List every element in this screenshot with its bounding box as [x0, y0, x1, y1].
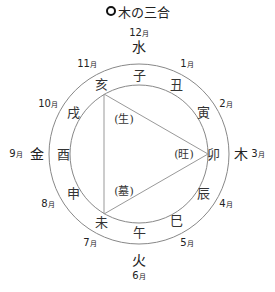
branch-label: 辰 [197, 187, 210, 200]
branch-label: 亥 [95, 78, 108, 91]
branch-label: 巳 [170, 214, 183, 227]
branch-label: 未 [95, 216, 108, 229]
month-label: 4月 [219, 199, 232, 209]
month-label: 10月 [38, 99, 58, 109]
branch-label: 卯 [207, 148, 220, 161]
month-label: 9月 [9, 149, 22, 159]
month-label: 8月 [41, 199, 54, 209]
phase-label: (墓) [114, 186, 134, 197]
month-label: 1月 [180, 59, 193, 69]
month-label: 3月 [251, 149, 264, 159]
branch-label: 丑 [170, 78, 183, 91]
branch-label: 子 [133, 69, 146, 82]
phase-label: (旺) [174, 149, 194, 160]
month-label: 7月 [83, 238, 96, 248]
element-label: 木 [234, 147, 248, 161]
month-label: 12月 [129, 28, 149, 38]
month-label: 5月 [180, 238, 193, 248]
branch-label: 戌 [67, 106, 80, 119]
month-label: 6月 [132, 271, 145, 281]
branch-label: 酉 [57, 148, 70, 161]
branch-label: 午 [133, 226, 146, 239]
branch-label: 寅 [197, 106, 210, 119]
branch-label: 申 [67, 187, 80, 200]
element-label: 金 [30, 147, 44, 161]
element-label: 水 [132, 40, 146, 54]
element-label: 火 [132, 253, 146, 267]
outer-circle [49, 64, 229, 244]
phase-label: (生) [114, 114, 134, 125]
month-label: 11月 [77, 59, 97, 69]
month-label: 2月 [219, 99, 232, 109]
